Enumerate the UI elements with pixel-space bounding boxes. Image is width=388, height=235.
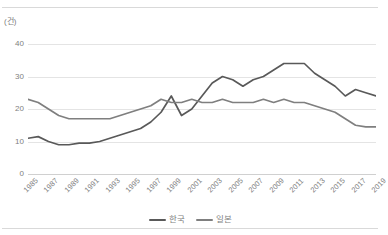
legend-label: 한국 xyxy=(169,215,185,224)
x-axis-tick-label: 2013 xyxy=(308,176,326,194)
x-axis-tick-label: 1989 xyxy=(63,176,81,194)
x-axis-tick-label: 2009 xyxy=(267,176,285,194)
x-axis-tick-label: 1987 xyxy=(42,176,60,194)
bottom-divider xyxy=(2,228,378,229)
y-axis-tick-label: 10 xyxy=(0,138,24,146)
x-axis-tick-label: 1999 xyxy=(165,176,183,194)
x-axis-tick-label: 1995 xyxy=(124,176,142,194)
series-line-한국 xyxy=(28,64,376,145)
x-axis-tick-label: 2005 xyxy=(226,176,244,194)
x-axis-tick-label: 2011 xyxy=(288,177,306,195)
legend-swatch-icon xyxy=(196,219,213,221)
y-axis-unit-label: (건) xyxy=(4,15,16,26)
chart-title-band xyxy=(0,0,380,7)
x-axis-tick-label: 2003 xyxy=(206,176,224,194)
x-axis-tick-label: 2019 xyxy=(370,176,388,194)
chart-legend: 한국일본 xyxy=(0,213,380,226)
x-axis-tick-label: 1991 xyxy=(83,176,101,194)
y-axis-tick-label: 30 xyxy=(0,73,24,81)
legend-item-일본[interactable]: 일본 xyxy=(196,215,232,224)
x-axis-tick-labels: 1985198719891991199319951997199920012003… xyxy=(28,176,376,210)
legend-item-한국[interactable]: 한국 xyxy=(149,215,185,224)
plot-area xyxy=(28,44,376,174)
x-axis-tick-label: 2015 xyxy=(329,176,347,194)
x-axis-tick-label: 2007 xyxy=(247,176,265,194)
x-axis-tick-label: 2001 xyxy=(185,176,203,194)
series-lines xyxy=(28,44,376,174)
x-axis-tick-label: 1993 xyxy=(104,176,122,194)
x-axis-tick-label: 1997 xyxy=(144,176,162,194)
y-axis-tick-label: 20 xyxy=(0,105,24,113)
x-axis-tick-label: 1985 xyxy=(22,176,40,194)
y-axis-tick-label: 0 xyxy=(0,170,24,178)
x-axis-tick-label: 2017 xyxy=(349,176,367,194)
legend-swatch-icon xyxy=(149,219,166,221)
legend-label: 일본 xyxy=(216,215,232,224)
y-axis-tick-labels: 010203040 xyxy=(0,44,24,174)
axis-baseline xyxy=(28,174,376,175)
y-axis-tick-label: 40 xyxy=(0,40,24,48)
top-divider xyxy=(2,7,378,8)
series-line-일본 xyxy=(28,99,376,127)
